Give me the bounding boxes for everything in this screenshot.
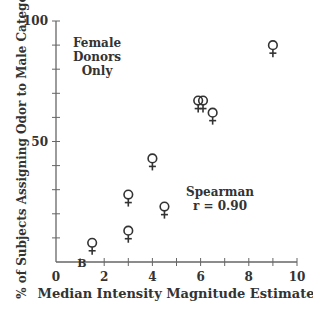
data-points xyxy=(88,41,277,255)
annotation-donors: Donors xyxy=(73,50,121,64)
female-symbol-icon xyxy=(148,154,157,170)
y-tick-label: 50 xyxy=(31,135,48,149)
female-symbol-icon xyxy=(124,190,133,206)
x-tick-label: 4 xyxy=(148,270,156,284)
annotation-only: Only xyxy=(82,64,114,78)
baseline-marker: B xyxy=(77,257,86,270)
x-tick-label: 10 xyxy=(289,270,306,284)
x-tick-label: 6 xyxy=(196,270,204,284)
annotation-spearman: Spearman xyxy=(186,185,254,199)
x-tick-label: 0 xyxy=(52,270,60,284)
female-symbol-icon xyxy=(208,108,217,124)
female-symbol-icon xyxy=(199,96,208,112)
x-axis-label: Median Intensity Magnitude Estimate xyxy=(38,286,313,301)
x-tick-labels: 0246810 xyxy=(52,270,306,284)
annotation-female: Female xyxy=(73,36,122,50)
female-symbol-icon xyxy=(160,202,169,218)
x-tick-label: 2 xyxy=(100,270,108,284)
female-symbol-icon xyxy=(269,41,278,57)
x-tick-label: 8 xyxy=(245,270,253,284)
female-symbol-icon xyxy=(124,226,133,242)
scatter-chart: 0246810 50100 Median Intensity Magnitude… xyxy=(0,0,313,309)
y-axis-label: % of Subjects Assigning Odor to Male Cat… xyxy=(15,0,29,299)
female-symbol-icon xyxy=(88,238,97,254)
annotation-r-value: r = 0.90 xyxy=(193,199,247,213)
